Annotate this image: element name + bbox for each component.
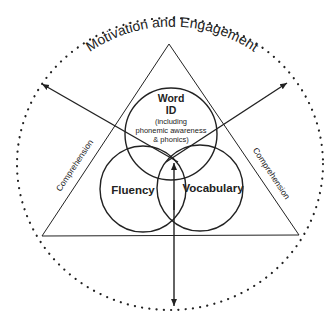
word-id-sub-2: phonemic awareness bbox=[136, 126, 207, 135]
word-id-title-2: ID bbox=[166, 104, 177, 116]
word-id-title-1: Word bbox=[158, 92, 185, 104]
word-id-sub-3: & phonics) bbox=[153, 135, 189, 144]
vocabulary-label: Vocabulary bbox=[182, 182, 244, 194]
reading-components-diagram: Motivation and Engagement Word ID (inclu… bbox=[0, 0, 334, 324]
fluency-label: Fluency bbox=[111, 184, 155, 196]
motivation-engagement-ring bbox=[17, 18, 323, 310]
word-id-sub-1: (including bbox=[155, 117, 187, 126]
